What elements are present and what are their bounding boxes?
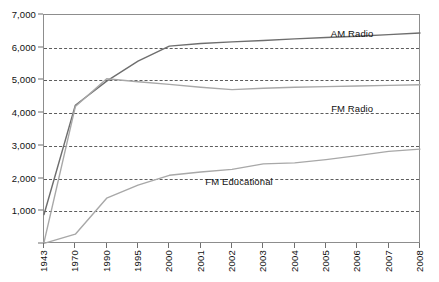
series-label-fm-educational: FM Educational bbox=[205, 176, 272, 187]
x-axis: 1943197019901995200020012002200320042005… bbox=[43, 243, 420, 282]
x-tick-label-2004: 2004 bbox=[289, 250, 300, 272]
x-tick-label-2000: 2000 bbox=[163, 250, 174, 272]
x-tick-mark-2008 bbox=[419, 243, 420, 248]
x-tick-mark-2006 bbox=[356, 243, 357, 248]
y-tick-label-3000: 3,000 bbox=[12, 139, 36, 150]
x-tick-label-2003: 2003 bbox=[257, 250, 268, 272]
y-axis: 1,0002,0003,0004,0005,0006,0007,000 bbox=[0, 0, 43, 257]
x-tick-mark-2003 bbox=[262, 243, 263, 248]
y-tick-label-1000: 1,000 bbox=[12, 205, 36, 216]
x-tick-label-2001: 2001 bbox=[195, 250, 206, 272]
x-tick-label-2005: 2005 bbox=[320, 250, 331, 272]
x-tick-mark-2007 bbox=[388, 243, 389, 248]
x-tick-mark-2005 bbox=[325, 243, 326, 248]
x-tick-label-2008: 2008 bbox=[414, 250, 425, 272]
series-label-fm-radio: FM Radio bbox=[331, 102, 373, 113]
x-tick-mark-2004 bbox=[294, 243, 295, 248]
x-tick-mark-1995 bbox=[137, 243, 138, 248]
series-line-am-radio bbox=[44, 33, 420, 215]
x-tick-label-2007: 2007 bbox=[383, 250, 394, 272]
y-tick-label-4000: 4,000 bbox=[12, 107, 36, 118]
y-tick-label-2000: 2,000 bbox=[12, 172, 36, 183]
x-tick-label-1990: 1990 bbox=[101, 250, 112, 272]
x-tick-mark-1970 bbox=[74, 243, 75, 248]
series-lines bbox=[44, 15, 421, 244]
x-tick-mark-2000 bbox=[168, 243, 169, 248]
y-tick-label-5000: 5,000 bbox=[12, 74, 36, 85]
x-tick-mark-1943 bbox=[43, 243, 44, 248]
line-chart: 1,0002,0003,0004,0005,0006,0007,000 AM R… bbox=[0, 0, 439, 282]
plot-area bbox=[43, 14, 420, 243]
x-tick-label-2006: 2006 bbox=[351, 250, 362, 272]
x-tick-label-2002: 2002 bbox=[226, 250, 237, 272]
y-tick-label-6000: 6,000 bbox=[12, 41, 36, 52]
x-tick-mark-2002 bbox=[231, 243, 232, 248]
y-tick-label-7000: 7,000 bbox=[12, 9, 36, 20]
series-line-fm-educational bbox=[44, 149, 420, 243]
x-tick-mark-2001 bbox=[200, 243, 201, 248]
x-tick-label-1943: 1943 bbox=[38, 250, 49, 272]
x-tick-label-1995: 1995 bbox=[132, 250, 143, 272]
series-label-am-radio: AM Radio bbox=[331, 28, 374, 39]
x-tick-mark-1990 bbox=[106, 243, 107, 248]
x-tick-label-1970: 1970 bbox=[69, 250, 80, 272]
